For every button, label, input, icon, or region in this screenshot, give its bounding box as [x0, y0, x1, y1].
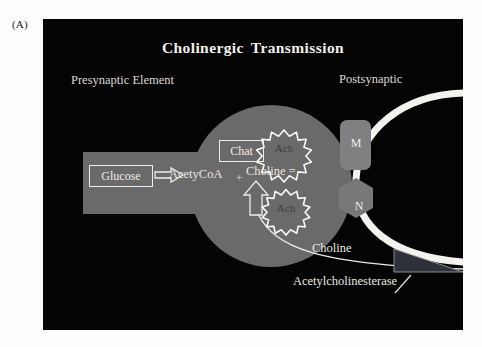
node-acetycoa: AcetyCoA [169, 167, 222, 182]
receptor-label-n: N [346, 199, 372, 214]
label-presynaptic: Presynaptic Element [71, 73, 174, 88]
figure-root: (A) [0, 0, 482, 347]
vesicle-label-1: Ach [264, 142, 304, 154]
postsynaptic-membrane [356, 93, 463, 262]
operator-plus: + [236, 171, 242, 183]
node-chat-enzyme: Chat [219, 140, 264, 162]
vesicle-label-2: Ach [266, 202, 306, 214]
node-choline-equals: Choline = [246, 164, 296, 179]
node-choline-reuptake: Choline [312, 241, 352, 256]
diagram-canvas: Cholinergic Transmission Presynaptic Ele… [43, 19, 463, 330]
panel-label: (A) [12, 18, 28, 30]
node-acetylcholinesterase: Acetylcholinesterase [293, 274, 397, 289]
receptor-label-m: M [343, 136, 369, 151]
label-postsynaptic: Postsynaptic [339, 72, 402, 87]
page-title: Cholinergic Transmission [43, 39, 463, 57]
leader-line-icon [395, 275, 411, 293]
node-glucose: Glucose [89, 165, 153, 187]
